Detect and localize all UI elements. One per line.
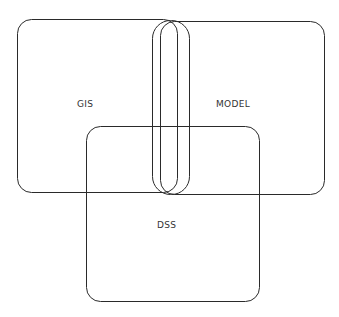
diagram-shapes bbox=[0, 0, 339, 317]
venn-diagram: GIS MODEL DSS bbox=[0, 0, 339, 317]
dss-label: DSS bbox=[157, 220, 176, 230]
model-label: MODEL bbox=[216, 99, 250, 109]
gis-label: GIS bbox=[77, 99, 93, 109]
dss-set-box bbox=[87, 127, 260, 302]
gis-model-overlap-pill bbox=[153, 21, 190, 195]
gis-set-box bbox=[18, 20, 178, 193]
